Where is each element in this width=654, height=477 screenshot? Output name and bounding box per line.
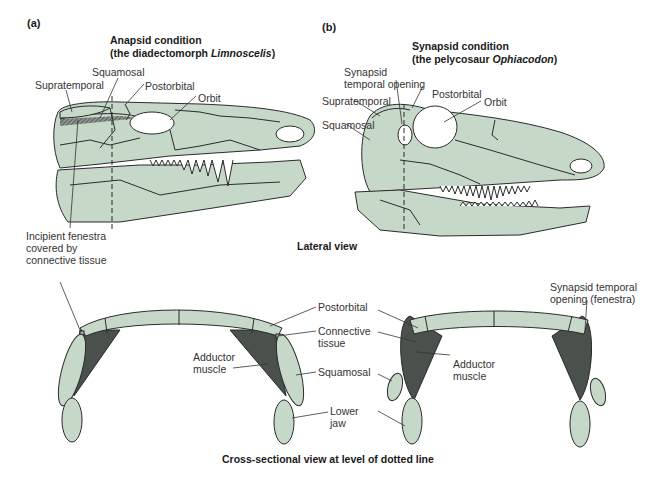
panel-a-title-genus: Limnoscelis — [211, 47, 272, 59]
label-a-postorbital: Postorbital — [145, 80, 195, 92]
panel-a-letter: (a) — [27, 17, 40, 29]
label-cs-squamosal: Squamosal — [318, 366, 371, 378]
label-cs-postorbital: Postorbital — [318, 301, 368, 313]
panel-b-title-line2: (the pelycosaur Ophiacodon) — [412, 53, 557, 66]
label-b-squamosal: Squamosal — [322, 119, 375, 131]
panel-a-title-suffix: ) — [272, 47, 276, 59]
label-b-synapsid-line2: temporal opening — [344, 78, 425, 90]
panel-b-title-genus: Ophiacodon — [493, 53, 554, 65]
label-cs-adductor-a-line2: muscle — [193, 363, 226, 375]
label-b-synapsid-line1: Synapsid — [344, 66, 387, 78]
panel-a-title-prefix: (the diadectomorph — [110, 47, 211, 59]
label-cs-adductor-b-line2: muscle — [453, 370, 486, 382]
panel-b-title-suffix: ) — [554, 53, 558, 65]
label-a-supratemporal: Supratemporal — [35, 79, 104, 91]
panel-a-title-line1: Anapsid condition — [110, 34, 202, 47]
panel-a-title-line2: (the diadectomorph Limnoscelis) — [110, 47, 275, 60]
label-incipient-line3: connective tissue — [26, 254, 107, 266]
label-cs-lower-line1: Lower — [330, 405, 359, 417]
panel-b-title-line1: Synapsid condition — [412, 40, 509, 53]
label-cs-fenestra-line2: opening (fenestra) — [550, 293, 635, 305]
label-cs-lower-line2: jaw — [330, 417, 346, 429]
label-b-supratemporal: Supratemporal — [322, 95, 391, 107]
lateral-view-caption: Lateral view — [297, 240, 357, 252]
label-b-postorbital: Postorbital — [432, 88, 482, 100]
cross-section-anapsid — [53, 310, 309, 444]
label-cs-adductor-a-line1: Adductor — [193, 351, 235, 363]
label-cs-adductor-b-line1: Adductor — [453, 358, 495, 370]
diagram-canvas: (a) Anapsid condition (the diadectomorph… — [0, 0, 654, 477]
label-incipient-line1: Incipient fenestra — [26, 230, 106, 242]
label-cs-connective-line1: Connective — [318, 325, 371, 337]
label-a-squamosal: Squamosal — [92, 66, 145, 78]
label-b-orbit: Orbit — [484, 96, 507, 108]
skull-synapsid — [355, 104, 604, 236]
label-a-orbit: Orbit — [198, 92, 221, 104]
label-incipient-line2: covered by — [26, 242, 77, 254]
panel-b-letter: (b) — [322, 21, 336, 33]
label-cs-connective-line2: tissue — [318, 337, 345, 349]
cross-section-synapsid — [385, 311, 609, 447]
label-cs-fenestra-line1: Synapsid temporal — [550, 281, 637, 293]
panel-b-title-prefix: (the pelycosaur — [412, 53, 493, 65]
skull-anapsid — [54, 96, 315, 232]
cross-section-caption: Cross-sectional view at level of dotted … — [222, 453, 434, 465]
